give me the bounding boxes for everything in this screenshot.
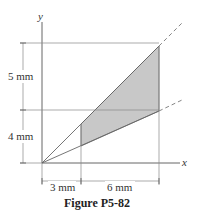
dimension-label-5mm: 5 mm [8,70,34,82]
upper-line-dashed-extension [159,23,182,46]
dimension-label-6mm: 6 mm [107,181,133,193]
figure-caption: Figure P5-82 [64,196,130,210]
dimension-label-3mm: 3 mm [50,181,76,193]
x-axis-label: x [181,156,187,168]
dimension-label-4mm: 4 mm [8,130,34,142]
figure-diagram: y x 5 mm 4 mm 3 mm 6 mm Figure P5-82 [0,0,197,213]
y-axis-label: y [37,10,43,22]
lower-line-dashed-extension [159,100,182,111]
shaded-region [81,46,159,146]
